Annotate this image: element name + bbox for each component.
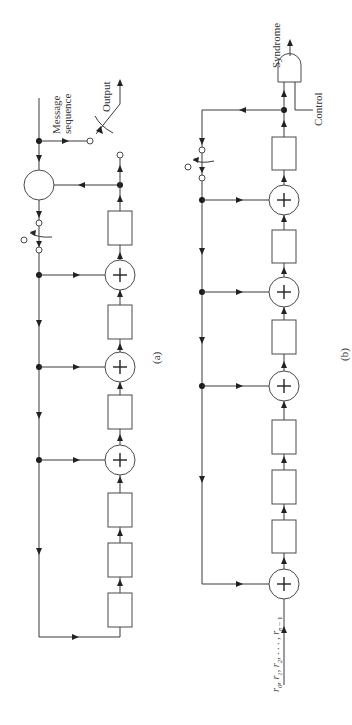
arrow-left-icon [78,182,85,188]
message-label-2: sequence [61,94,73,134]
output-label: Output [100,81,112,112]
tap-1 [36,272,105,278]
switch-contact [21,237,27,243]
register-stage [108,395,132,429]
switch-contact [87,138,93,144]
arrow-up-icon [281,361,287,368]
encoder-decoder-diagram: Message sequence Output [0,0,352,725]
arrow-down-icon [36,412,42,419]
arrow-down-icon [36,548,42,555]
panel-a-encoder: Message sequence Output [21,79,163,640]
arrow-up-icon [117,195,123,202]
register-stage [272,230,296,263]
register-stage [272,520,296,553]
panel-b-syndrome-calculator: Syndrome Control [185,23,351,692]
arrow-up-icon [117,434,123,441]
register-stage [272,420,296,454]
tap-3 [36,457,105,463]
arrow-down-icon [199,167,205,173]
arrow-up-icon [287,39,293,46]
arrow-up-icon [117,79,123,86]
arrow-down-icon [199,337,205,344]
control-line [295,82,313,110]
caption-b: (b) [338,348,351,361]
tap-2 [199,289,269,295]
arrow-right-icon [72,634,79,640]
register-stage [108,211,132,245]
arrow-up-icon [117,476,123,483]
register-stage [272,470,296,504]
arrow-right-icon [62,138,69,144]
arrow-down-icon [36,211,42,218]
received-sequence-label: r0, r1, r2, . . . , rn − 1 [270,616,284,692]
arrow-up-icon [281,401,287,408]
tap-2 [36,364,105,370]
tap-1 [199,197,269,203]
arrow-up-icon [117,290,123,297]
arrow-up-icon [281,307,287,314]
arrow-up-icon [117,382,123,389]
syndrome-label: Syndrome [270,23,282,68]
switch-contact [36,247,42,253]
tap-3 [199,383,269,389]
arrow-up-icon [117,529,123,536]
arrow-up-icon [117,579,123,586]
arrow-up-icon [281,506,287,513]
arrow-right-icon [236,581,243,587]
switch-contact [199,175,205,181]
switch-contact [117,152,123,158]
arrow-up-icon [281,120,287,127]
switch-contact [199,147,205,153]
arrow-down-icon [36,320,42,327]
register-stage [108,305,132,339]
arrow-up-icon [281,215,287,222]
control-label: Control [312,92,324,126]
arrow-down-icon [199,138,205,145]
arrow-up-icon [117,343,123,350]
feedback-gate-circle [24,170,54,200]
register-stage [272,137,296,170]
arrow-down-icon [36,241,42,247]
arrow-up-icon [281,456,287,463]
arrow-up-icon [281,267,287,274]
arrow-down-icon [199,248,205,255]
switch-contact [185,164,191,170]
switch-contact [36,220,42,226]
arrow-down-icon [36,155,42,162]
arrow-up-icon [281,557,287,564]
arrow-up-icon [281,175,287,182]
arrow-down-icon [199,476,205,483]
arrow-up-icon [117,165,123,172]
register-stage [108,593,132,627]
register-stage [108,493,132,527]
register-stage [108,543,132,577]
arrow-left-icon [239,107,246,113]
register-stage [272,320,296,354]
caption-a: (a) [150,351,163,364]
arrow-up-icon [281,90,287,97]
arrow-up-icon [117,252,123,259]
